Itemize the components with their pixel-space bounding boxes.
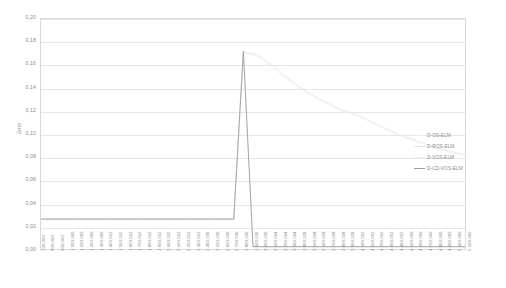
- x-axis-tick: 4.700,000: [429, 231, 433, 251]
- plot-area: [41, 19, 465, 249]
- y-axis-tick: 0,20: [26, 15, 37, 20]
- legend-item[interactable]: D-OS-ELM: [414, 130, 506, 141]
- legend-label: D-VOS-ELM: [427, 155, 454, 160]
- y-axis-tick: 0,02: [26, 224, 37, 229]
- series-line: [41, 52, 465, 219]
- legend-swatch-icon: [414, 135, 425, 136]
- y-axis-tick: 0,06: [26, 178, 37, 183]
- x-axis-tick: 1.000,060: [71, 231, 75, 251]
- y-axis-tick: 0,08: [26, 155, 37, 160]
- x-axis-tick: 1.900,012: [158, 231, 162, 251]
- x-axis-tick: 3.200,004: [284, 231, 288, 251]
- x-axis-tick: 700,060: [42, 235, 46, 251]
- series-line: [41, 51, 465, 247]
- series-line: [41, 54, 465, 220]
- legend-swatch-icon: [414, 157, 425, 158]
- x-axis-tick: 3.500,028: [313, 231, 317, 251]
- x-axis-tick: 1.200,060: [90, 231, 94, 251]
- legend-item[interactable]: D-ROS-ELM: [414, 141, 506, 152]
- series-lines: [41, 19, 465, 249]
- x-axis-tick: 3.900,028: [351, 231, 355, 251]
- x-axis-tick: 2.600,036: [226, 231, 230, 251]
- x-axis-tick: 4.000,052: [361, 231, 365, 251]
- chart-legend: D-OS-ELMD-ROS-ELMD-VOS-ELMD-CD-VOS-ELM: [414, 130, 506, 174]
- x-axis-tick: 2.800,036: [245, 231, 249, 251]
- x-axis-tick: 4.400,052: [400, 231, 404, 251]
- x-axis-tick: 800,060: [51, 235, 55, 251]
- legend-item[interactable]: D-CD-VOS-ELM: [414, 163, 506, 174]
- x-axis-tick: 2.200,012: [187, 231, 191, 251]
- y-axis-tick: 0,00: [26, 247, 37, 252]
- x-axis-tick: 3.600,028: [322, 231, 326, 251]
- x-axis-tick: 2.900,036: [255, 231, 259, 251]
- plot-frame: [40, 18, 466, 250]
- x-axis-tick: 4.100,052: [371, 231, 375, 251]
- x-axis-tick: 3.100,004: [274, 231, 278, 251]
- y-axis-tick: 0,10: [26, 131, 37, 136]
- x-axis-tick: 2.700,036: [235, 231, 239, 251]
- x-axis-tick: 3.400,028: [303, 231, 307, 251]
- legend-swatch-icon: [414, 168, 425, 169]
- x-axis-tick: 2.000,012: [167, 231, 171, 251]
- x-axis-tick: 2.100,012: [177, 231, 181, 251]
- legend-item[interactable]: D-VOS-ELM: [414, 152, 506, 163]
- legend-label: D-CD-VOS-ELM: [427, 166, 463, 171]
- x-axis-tick: 2.500,036: [216, 231, 220, 251]
- x-axis-tick: 2.400,036: [206, 231, 210, 251]
- chart-screenshot: Error 0,200,180,160,140,120,100,080,060,…: [0, 0, 506, 288]
- x-axis-tick: 1.700,012: [138, 231, 142, 251]
- x-axis-tick: 5.000,060: [458, 231, 462, 251]
- legend-swatch-icon: [414, 146, 425, 147]
- x-axis-tick: 4.900,060: [448, 231, 452, 251]
- x-axis-tick-labels: 700,060800,060900,0601.000,0601.100,0601…: [40, 251, 466, 288]
- y-axis-tick: 0,04: [26, 201, 37, 206]
- x-axis-tick: 1.600,012: [129, 231, 133, 251]
- x-axis-tick: 1.800,012: [148, 231, 152, 251]
- x-axis-tick: 4.300,052: [390, 231, 394, 251]
- legend-label: D-OS-ELM: [427, 133, 451, 138]
- x-axis-tick: 1.400,012: [109, 231, 113, 251]
- x-axis-tick: 4.600,000: [419, 231, 423, 251]
- x-axis-tick: 5.100,060: [468, 231, 472, 251]
- x-axis-tick: 3.000,036: [264, 231, 268, 251]
- y-axis-tick-labels: 0,200,180,160,140,120,100,080,060,040,02…: [0, 18, 40, 250]
- x-axis-tick: 2.300,012: [197, 231, 201, 251]
- x-axis-tick: 900,060: [61, 235, 65, 251]
- y-axis-tick: 0,16: [26, 62, 37, 67]
- x-axis-tick: 3.700,028: [332, 231, 336, 251]
- x-axis-tick: 4.800,000: [439, 231, 443, 251]
- x-axis-tick: 3.300,004: [293, 231, 297, 251]
- x-axis-tick: 4.500,000: [410, 231, 414, 251]
- x-axis-tick: 1.300,060: [100, 231, 104, 251]
- x-axis-tick: 1.500,012: [119, 231, 123, 251]
- legend-label: D-ROS-ELM: [427, 144, 454, 149]
- y-axis-tick: 0,18: [26, 39, 37, 44]
- x-axis-tick: 1.100,060: [80, 231, 84, 251]
- y-axis-tick: 0,12: [26, 108, 37, 113]
- series-line: [41, 51, 465, 247]
- x-axis-tick: 4.200,052: [380, 231, 384, 251]
- x-axis-tick: 3.800,028: [342, 231, 346, 251]
- y-axis-tick: 0,14: [26, 85, 37, 90]
